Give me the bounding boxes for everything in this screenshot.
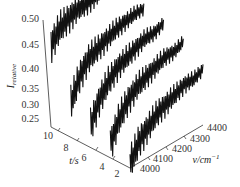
- svg-text:8: 8: [64, 142, 69, 153]
- z-axis-label: Irelative: [5, 64, 18, 89]
- t-axis-label: t/s: [69, 155, 79, 166]
- svg-text:6: 6: [82, 152, 87, 163]
- svg-text:4300: 4300: [190, 133, 210, 144]
- svg-text:0.35: 0.35: [22, 83, 40, 94]
- svg-text:4400: 4400: [207, 122, 227, 133]
- z-tick-labels: 0.50 0.45 0.40 0.35 0.30 0.25: [22, 13, 40, 124]
- svg-text:0.45: 0.45: [22, 39, 40, 50]
- svg-text:4000: 4000: [140, 163, 160, 174]
- svg-text:10: 10: [43, 130, 53, 141]
- svg-text:0.30: 0.30: [22, 99, 40, 110]
- nu-axis-label: ν/cm−1: [192, 153, 219, 165]
- svg-text:2: 2: [115, 168, 120, 179]
- svg-text:4: 4: [100, 161, 105, 172]
- svg-text:4200: 4200: [172, 143, 192, 154]
- svg-text:4100: 4100: [153, 153, 173, 164]
- z-axis-line: [43, 20, 51, 127]
- svg-text:0.40: 0.40: [22, 63, 40, 74]
- svg-text:0.25: 0.25: [22, 113, 40, 124]
- waterfall-chart: 0.50 0.45 0.40 0.35 0.30 0.25 Irelative …: [0, 0, 240, 187]
- series-trace: [71, 4, 144, 117]
- t-tick-labels: 10 8 6 4 2: [43, 130, 120, 179]
- svg-text:0.50: 0.50: [22, 13, 40, 24]
